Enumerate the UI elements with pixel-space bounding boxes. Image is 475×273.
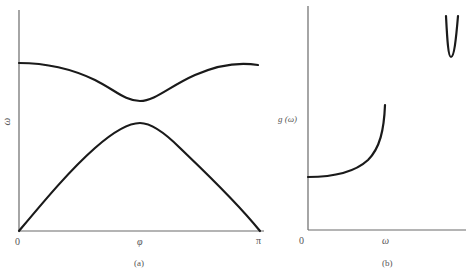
panel-a-x-tick-0: 0 — [15, 237, 20, 247]
panel-a-lower-branch — [19, 123, 260, 231]
panel-a-x-tick-pi: π — [256, 236, 261, 246]
panel-a-y-label: ω — [1, 118, 12, 126]
figure — [0, 0, 475, 273]
panel-b-y-label: g (ω) — [278, 115, 297, 124]
panel-b-caption: (b) — [382, 259, 393, 268]
panel-b-upper-band-curve — [446, 16, 458, 57]
panel-a-upper-branch — [19, 63, 258, 101]
panel-b — [308, 6, 466, 230]
panel-b-y-label-text: g (ω) — [278, 114, 297, 124]
panel-a-x-tick-phi: φ — [137, 237, 143, 247]
panel-b-x-tick-0: 0 — [299, 236, 304, 246]
panel-a — [19, 10, 264, 231]
panel-a-caption: (a) — [134, 259, 144, 268]
panel-b-x-tick-omega: ω — [382, 236, 389, 246]
panel-b-lower-band-curve — [308, 105, 385, 177]
